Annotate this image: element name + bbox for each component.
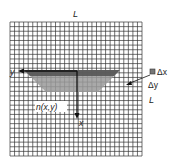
label-delta-y: Δy [148,80,159,90]
label-y-axis: y [9,67,15,77]
label-side-L: L [149,95,154,105]
label-n-xy: n(x,y) [36,102,57,112]
label-x-axis: x [78,118,84,128]
diagram-canvas: L L y x n(x,y) Δx Δy [0,0,181,162]
label-delta-x: Δx [157,67,168,77]
pointer-arrowhead [126,81,132,85]
label-top-L: L [73,9,78,19]
unit-cell-icon [150,69,155,74]
